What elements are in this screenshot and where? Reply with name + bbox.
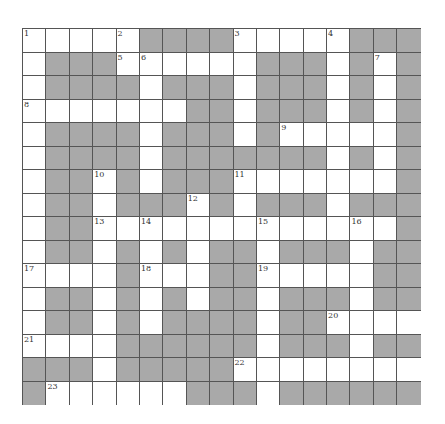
letter-cell[interactable] <box>350 311 373 335</box>
letter-cell[interactable] <box>187 217 210 241</box>
letter-cell[interactable] <box>350 335 373 359</box>
letter-cell[interactable] <box>140 123 163 147</box>
letter-cell[interactable] <box>140 288 163 312</box>
letter-cell[interactable] <box>187 288 210 312</box>
letter-cell[interactable] <box>163 100 186 124</box>
letter-cell[interactable] <box>23 217 46 241</box>
letter-cell[interactable] <box>23 311 46 335</box>
letter-cell[interactable] <box>374 358 397 382</box>
letter-cell[interactable] <box>257 241 280 265</box>
letter-cell[interactable] <box>327 147 350 171</box>
letter-cell[interactable] <box>257 335 280 359</box>
letter-cell[interactable] <box>350 241 373 265</box>
letter-cell[interactable] <box>46 29 69 53</box>
letter-cell[interactable] <box>23 53 46 77</box>
letter-cell[interactable] <box>234 123 257 147</box>
letter-cell[interactable] <box>234 194 257 218</box>
letter-cell[interactable] <box>187 264 210 288</box>
letter-cell[interactable] <box>234 76 257 100</box>
letter-cell[interactable] <box>374 217 397 241</box>
letter-cell[interactable]: 16 <box>350 217 373 241</box>
letter-cell[interactable] <box>23 170 46 194</box>
letter-cell[interactable] <box>304 358 327 382</box>
letter-cell[interactable] <box>397 311 420 335</box>
letter-cell[interactable]: 22 <box>234 358 257 382</box>
letter-cell[interactable] <box>327 194 350 218</box>
letter-cell[interactable] <box>397 358 420 382</box>
letter-cell[interactable] <box>93 311 116 335</box>
letter-cell[interactable] <box>350 264 373 288</box>
letter-cell[interactable] <box>304 170 327 194</box>
letter-cell[interactable] <box>327 76 350 100</box>
letter-cell[interactable] <box>350 358 373 382</box>
letter-cell[interactable] <box>327 123 350 147</box>
letter-cell[interactable] <box>117 100 140 124</box>
letter-cell[interactable] <box>23 123 46 147</box>
letter-cell[interactable]: 4 <box>327 29 350 53</box>
letter-cell[interactable] <box>117 382 140 406</box>
letter-cell[interactable] <box>23 288 46 312</box>
letter-cell[interactable] <box>117 217 140 241</box>
letter-cell[interactable] <box>93 382 116 406</box>
letter-cell[interactable] <box>327 217 350 241</box>
letter-cell[interactable]: 17 <box>23 264 46 288</box>
letter-cell[interactable] <box>163 217 186 241</box>
letter-cell[interactable] <box>257 382 280 406</box>
letter-cell[interactable]: 18 <box>140 264 163 288</box>
letter-cell[interactable] <box>327 170 350 194</box>
letter-cell[interactable] <box>304 29 327 53</box>
letter-cell[interactable] <box>93 29 116 53</box>
letter-cell[interactable] <box>304 264 327 288</box>
letter-cell[interactable] <box>93 335 116 359</box>
letter-cell[interactable] <box>93 194 116 218</box>
letter-cell[interactable] <box>280 29 303 53</box>
letter-cell[interactable] <box>280 217 303 241</box>
letter-cell[interactable] <box>140 76 163 100</box>
letter-cell[interactable] <box>350 170 373 194</box>
letter-cell[interactable] <box>374 311 397 335</box>
letter-cell[interactable] <box>327 53 350 77</box>
letter-cell[interactable] <box>140 311 163 335</box>
letter-cell[interactable] <box>46 264 69 288</box>
letter-cell[interactable]: 14 <box>140 217 163 241</box>
letter-cell[interactable] <box>257 311 280 335</box>
letter-cell[interactable]: 19 <box>257 264 280 288</box>
letter-cell[interactable] <box>327 358 350 382</box>
letter-cell[interactable] <box>46 335 69 359</box>
letter-cell[interactable] <box>374 123 397 147</box>
letter-cell[interactable] <box>140 147 163 171</box>
letter-cell[interactable]: 3 <box>234 29 257 53</box>
letter-cell[interactable] <box>210 53 233 77</box>
letter-cell[interactable] <box>93 264 116 288</box>
letter-cell[interactable] <box>23 194 46 218</box>
letter-cell[interactable] <box>23 147 46 171</box>
letter-cell[interactable] <box>234 100 257 124</box>
letter-cell[interactable] <box>93 358 116 382</box>
letter-cell[interactable] <box>257 170 280 194</box>
letter-cell[interactable]: 15 <box>257 217 280 241</box>
letter-cell[interactable] <box>350 123 373 147</box>
letter-cell[interactable] <box>93 288 116 312</box>
letter-cell[interactable] <box>140 170 163 194</box>
letter-cell[interactable] <box>163 382 186 406</box>
letter-cell[interactable] <box>374 147 397 171</box>
letter-cell[interactable]: 21 <box>23 335 46 359</box>
letter-cell[interactable]: 12 <box>187 194 210 218</box>
letter-cell[interactable]: 6 <box>140 53 163 77</box>
letter-cell[interactable] <box>23 241 46 265</box>
letter-cell[interactable] <box>280 358 303 382</box>
letter-cell[interactable]: 20 <box>327 311 350 335</box>
letter-cell[interactable]: 10 <box>93 170 116 194</box>
letter-cell[interactable]: 9 <box>280 123 303 147</box>
letter-cell[interactable]: 11 <box>234 170 257 194</box>
letter-cell[interactable]: 5 <box>117 53 140 77</box>
letter-cell[interactable] <box>70 264 93 288</box>
letter-cell[interactable] <box>93 241 116 265</box>
letter-cell[interactable] <box>70 335 93 359</box>
letter-cell[interactable] <box>70 29 93 53</box>
letter-cell[interactable] <box>46 100 69 124</box>
letter-cell[interactable] <box>140 241 163 265</box>
letter-cell[interactable] <box>187 53 210 77</box>
letter-cell[interactable]: 2 <box>117 29 140 53</box>
letter-cell[interactable]: 7 <box>374 53 397 77</box>
